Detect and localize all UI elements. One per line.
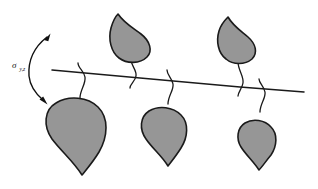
- figure-background: [0, 0, 318, 189]
- branch-leaves-diagram: σ y,z: [0, 0, 318, 189]
- angle-label-subscript: y,z: [19, 66, 27, 72]
- angle-label-symbol: σ: [12, 60, 17, 70]
- figure-root: σ y,z: [0, 0, 318, 189]
